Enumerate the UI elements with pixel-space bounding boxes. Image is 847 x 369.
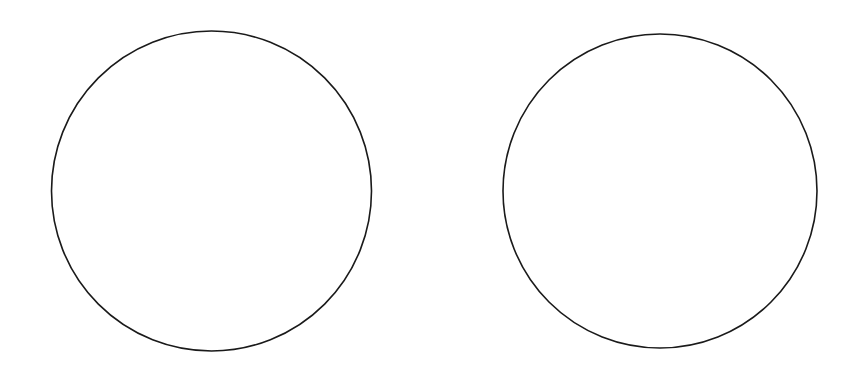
left-circle (52, 31, 372, 351)
right-circle (503, 34, 817, 348)
diagram-canvas (0, 0, 847, 369)
